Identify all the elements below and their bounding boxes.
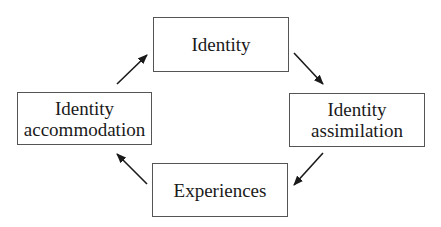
node-identity-assimilation-line2: assimilation — [311, 120, 403, 141]
arrow-experiences-to-accommodation — [117, 154, 147, 184]
node-identity-accommodation: Identity accommodation — [17, 92, 152, 145]
arrow-identity-to-assimilation — [294, 53, 323, 84]
arrow-accommodation-to-identity — [117, 55, 147, 84]
node-experiences: Experiences — [152, 163, 288, 217]
node-identity: Identity — [153, 17, 289, 72]
node-experiences-label: Experiences — [174, 180, 267, 201]
node-identity-assimilation-line1: Identity — [327, 99, 386, 120]
node-identity-label: Identity — [191, 34, 250, 55]
node-identity-accommodation-line1: Identity — [55, 98, 114, 119]
node-identity-accommodation-line2: accommodation — [24, 119, 145, 140]
node-identity-assimilation: Identity assimilation — [289, 93, 425, 147]
arrow-assimilation-to-experiences — [294, 153, 323, 185]
